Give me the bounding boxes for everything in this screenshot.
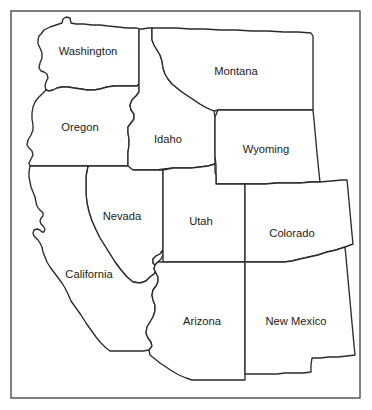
state-label-montana: Montana	[214, 65, 258, 77]
state-label-idaho: Idaho	[154, 133, 182, 145]
state-label-california: California	[65, 268, 113, 280]
state-label-washington: Washington	[59, 45, 118, 57]
state-label-colorado: Colorado	[269, 227, 314, 239]
state-label-utah: Utah	[189, 215, 213, 227]
state-label-nevada: Nevada	[103, 210, 142, 222]
us-west-states-map: WashingtonOregonIdahoMontanaWyomingNevad…	[0, 0, 372, 410]
state-shape-new-mexico[interactable]	[245, 247, 355, 374]
state-label-new-mexico: New Mexico	[266, 315, 327, 327]
state-label-arizona: Arizona	[183, 315, 222, 327]
map-canvas: WashingtonOregonIdahoMontanaWyomingNevad…	[0, 0, 372, 410]
state-label-oregon: Oregon	[61, 121, 98, 133]
state-label-wyoming: Wyoming	[243, 143, 290, 155]
